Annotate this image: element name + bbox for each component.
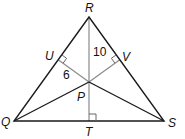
incenter-diagram: R Q S T P U V 10 6 [0,0,185,139]
segment-pv [89,60,120,82]
label-p: P [77,90,85,104]
measure-rp: 10 [93,45,107,59]
label-u: U [45,49,54,63]
label-t: T [85,125,94,139]
label-s: S [168,116,176,130]
label-v: V [122,50,131,64]
right-angle-marker-u [62,55,67,63]
right-angle-marker-v [111,55,116,63]
label-r: R [85,1,94,15]
right-angle-marker-t [89,114,96,121]
label-q: Q [1,115,10,129]
segment-ps [89,82,164,121]
measure-pu: 6 [63,68,70,82]
